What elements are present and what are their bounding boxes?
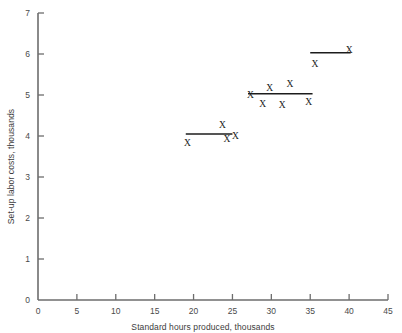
data-point-marker-8: X [287, 79, 294, 89]
data-point-marker-6: X [266, 83, 273, 93]
x-tick-label-40: 40 [344, 306, 354, 316]
y-tick-label-7: 7 [25, 8, 30, 18]
scatter-plot-figure: 01234567051015202530354045XXXXXXXXXXXXSt… [0, 0, 402, 333]
data-point-marker-11: X [346, 45, 353, 55]
y-tick-label-0: 0 [25, 295, 30, 305]
x-tick-label-15: 15 [150, 306, 160, 316]
x-tick-label-45: 45 [383, 306, 393, 316]
plot-canvas: 01234567051015202530354045XXXXXXXXXXXXSt… [0, 0, 402, 333]
y-tick-label-6: 6 [25, 49, 30, 59]
x-tick-label-0: 0 [36, 306, 41, 316]
y-tick-label-1: 1 [25, 254, 30, 264]
data-point-marker-9: X [305, 97, 312, 107]
data-point-marker-3: X [232, 131, 239, 141]
y-tick-label-5: 5 [25, 90, 30, 100]
x-axis-title: Standard hours produced, thousands [131, 322, 274, 332]
x-tick-label-10: 10 [111, 306, 121, 316]
x-tick-label-25: 25 [228, 306, 238, 316]
x-tick-label-35: 35 [305, 306, 315, 316]
y-tick-label-4: 4 [25, 131, 30, 141]
data-point-marker-4: X [247, 90, 254, 100]
data-point-marker-5: X [259, 99, 266, 109]
data-point-marker-1: X [219, 120, 226, 130]
data-point-marker-0: X [184, 138, 191, 148]
y-axis-title: Set-up labor costs, thousands [6, 109, 16, 224]
y-tick-label-2: 2 [25, 213, 30, 223]
y-tick-label-3: 3 [25, 172, 30, 182]
data-point-marker-10: X [311, 59, 318, 69]
x-tick-label-20: 20 [189, 306, 199, 316]
data-point-marker-2: X [224, 134, 231, 144]
x-tick-label-30: 30 [267, 306, 277, 316]
data-point-marker-7: X [279, 100, 286, 110]
x-tick-label-5: 5 [75, 306, 80, 316]
